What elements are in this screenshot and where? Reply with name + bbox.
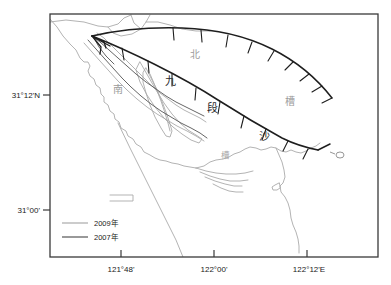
label-sha: 沙 (259, 130, 270, 143)
hachure (226, 35, 228, 47)
hachure (195, 88, 196, 100)
channel-2009-d (213, 184, 243, 192)
scarp-east-tail (318, 144, 330, 150)
label-duan: 段 (207, 101, 218, 115)
coastline-2009-mainland (50, 19, 196, 168)
scarp-north (92, 28, 332, 98)
hachure (322, 98, 332, 103)
x-tick-label-122-00: 122°00' (201, 265, 228, 274)
scarp-group (92, 28, 332, 150)
label-bei: 北 (190, 49, 200, 60)
east-tip-marks (330, 152, 344, 158)
channel-2009-a (196, 168, 253, 174)
x-tick-label-122-12: 122°12'E (293, 265, 325, 274)
hachure (248, 42, 252, 53)
label-cao-right: 槽 (285, 95, 295, 107)
x-tick-label-121-48: 121°48' (108, 265, 135, 274)
coastline-2009-inlet (131, 15, 141, 29)
hachure (148, 61, 149, 73)
hachure (300, 74, 309, 81)
channel-2009-c (205, 177, 242, 186)
label-cao-lower: 槽 (221, 150, 230, 160)
hachure (283, 141, 288, 151)
y-tick-label-31-12: 31°12'N (12, 91, 41, 100)
label-jiu: 九 (165, 75, 176, 88)
hachure (218, 102, 220, 114)
scarp-apex-marks (92, 36, 110, 54)
coastline-2009-island (272, 183, 280, 190)
hachure (285, 62, 293, 70)
map-canvas: 北 九 南 段 槽 沙 槽 2009年 2007年 31°12'N 31°00' (0, 0, 391, 285)
boundary-step-2009 (110, 195, 133, 201)
hachure (201, 30, 202, 42)
hachure (268, 51, 274, 61)
hachure (173, 28, 174, 40)
coastline-2009-upper (50, 15, 131, 27)
shoal-south-2009-b (84, 43, 204, 141)
hachure (303, 149, 308, 159)
map-figure: 北 九 南 段 槽 沙 槽 2009年 2007年 31°12'N 31°00' (0, 0, 391, 285)
islet-tick (330, 152, 335, 154)
hachure (241, 116, 244, 128)
boundary-line-2009 (118, 123, 183, 257)
label-nan: 南 (113, 83, 123, 95)
coastline-2009-south-jiangsu (276, 148, 299, 253)
legend-label-2009: 2009年 (94, 218, 119, 228)
y-tick-label-31-00: 31°00' (17, 206, 40, 215)
scarp-south (92, 36, 318, 150)
coastline-2009-lower-right (196, 143, 320, 168)
legend-label-2007: 2007年 (94, 232, 119, 242)
islet (336, 152, 344, 158)
scarp-hachures-north (173, 28, 332, 103)
hachure (312, 86, 322, 92)
map-legend: 2009年 2007年 (62, 218, 119, 242)
